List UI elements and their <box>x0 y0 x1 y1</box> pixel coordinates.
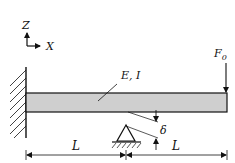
beam-diagram: Z X E, I F0 <box>0 0 235 163</box>
load-label: F0 <box>213 47 227 62</box>
z-axis-label: Z <box>21 19 30 32</box>
delta-label: δ <box>160 124 167 137</box>
ei-label: E, I <box>120 69 141 82</box>
x-axis-label: X <box>45 40 55 53</box>
dimension-label-left: L <box>71 139 80 153</box>
gap-delta: δ <box>126 110 167 150</box>
dimension-label-right: L <box>171 139 180 153</box>
load-f0: F0 <box>213 47 227 92</box>
fixed-wall <box>10 67 26 138</box>
beam <box>26 93 227 112</box>
pin-support <box>112 125 141 148</box>
coordinate-axes: Z X <box>21 19 55 53</box>
